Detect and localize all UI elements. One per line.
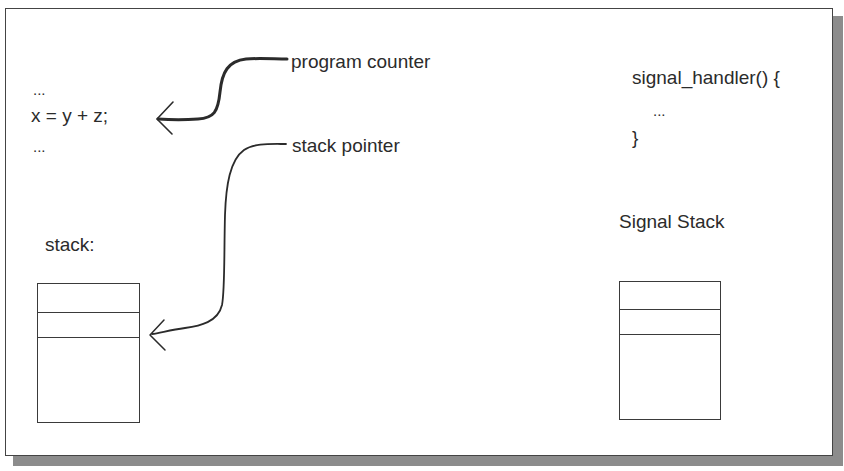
stack-pointer-arrow-icon (150, 144, 286, 350)
program-counter-arrow-icon (157, 59, 287, 134)
arrows-layer (0, 0, 844, 471)
